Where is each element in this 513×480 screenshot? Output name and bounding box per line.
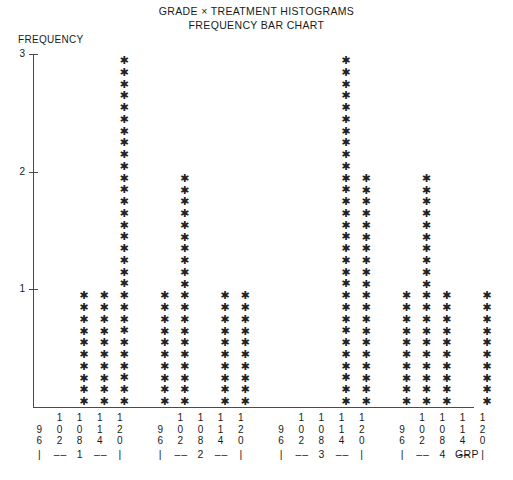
group-rule: – – <box>414 447 430 461</box>
chart-title-block: GRADE × TREATMENT HISTOGRAMS FREQUENCY B… <box>0 4 513 32</box>
chart-title-primary: GRADE × TREATMENT HISTOGRAMS <box>0 4 513 18</box>
bar-asterisk: ✱ <box>79 361 88 373</box>
x-tick-label: 114 <box>214 412 228 447</box>
bar-asterisk: ✱ <box>361 173 370 185</box>
bar-asterisk: ✱ <box>79 314 88 326</box>
bar-asterisk: ✱ <box>341 114 350 126</box>
bar-asterisk: ✱ <box>120 349 129 361</box>
bar-asterisk: ✱ <box>120 208 129 220</box>
x-tick-digit: 9 <box>395 424 409 436</box>
bar-asterisk: ✱ <box>422 267 431 279</box>
group-boundary: | <box>233 447 249 461</box>
y-axis-label: FREQUENCY <box>18 34 83 45</box>
x-tick-label: 096 <box>274 412 288 447</box>
x-tick-digit: 1 <box>435 412 449 424</box>
histogram-bar: ✱✱✱✱✱✱✱✱✱✱✱✱✱✱✱✱✱✱✱✱✱✱✱✱✱✱✱✱✱✱ <box>120 55 129 408</box>
group-rule: – – <box>213 447 229 461</box>
bar-asterisk: ✱ <box>422 361 431 373</box>
x-tick-digit: 1 <box>476 412 490 424</box>
histogram-bar: ✱✱✱✱✱✱✱✱✱✱✱✱✱✱✱✱✱✱✱✱ <box>361 173 370 408</box>
x-tick-digit: 6 <box>153 435 167 447</box>
x-tick-digit: 2 <box>294 435 308 447</box>
x-tick-label: 108 <box>314 412 328 447</box>
y-tick-mark <box>29 172 38 173</box>
x-tick-digit: 1 <box>335 424 349 436</box>
x-tick-digit: 1 <box>335 412 349 424</box>
bar-asterisk: ✱ <box>99 314 108 326</box>
histogram-bar: ✱✱✱✱✱✱✱✱✱✱ <box>99 290 108 408</box>
x-tick-label: 120 <box>234 412 248 447</box>
x-tick-digit: 0 <box>52 424 66 436</box>
y-tick-label: 1 <box>5 284 25 294</box>
bar-asterisk: ✱ <box>442 314 451 326</box>
x-tick-label: 120 <box>476 412 490 447</box>
x-tick-digit: 8 <box>435 435 449 447</box>
bar-asterisk: ✱ <box>422 314 431 326</box>
x-tick-digit: 1 <box>455 424 469 436</box>
group-rule: – – <box>51 447 67 461</box>
bar-asterisk: ✱ <box>241 396 250 408</box>
bar-asterisk: ✱ <box>341 396 350 408</box>
x-tick-digit: 2 <box>476 424 490 436</box>
x-tick-digit: 1 <box>214 412 228 424</box>
bar-asterisk: ✱ <box>341 302 350 314</box>
x-tick-digit: 8 <box>73 435 87 447</box>
x-tick-digit: 4 <box>214 435 228 447</box>
x-tick-digit: 1 <box>194 412 208 424</box>
bar-asterisk: ✱ <box>402 361 411 373</box>
x-tick-label: 114 <box>335 412 349 447</box>
bar-asterisk: ✱ <box>180 314 189 326</box>
group-axis: GRP |– –1– –||– –2– –||– –3– –||– –4– –| <box>0 447 513 461</box>
x-tick-digit: 0 <box>194 424 208 436</box>
bar-asterisk: ✱ <box>180 220 189 232</box>
group-label: 4 <box>434 447 450 461</box>
x-tick-digit: 4 <box>455 435 469 447</box>
x-tick-digit: 2 <box>415 435 429 447</box>
histogram-bar: ✱✱✱✱✱✱✱✱✱✱ <box>402 290 411 408</box>
group-rule: – – <box>454 447 470 461</box>
x-tick-label: 108 <box>194 412 208 447</box>
bar-asterisk: ✱ <box>361 396 370 408</box>
x-tick-digit: 8 <box>194 435 208 447</box>
bar-asterisk: ✱ <box>220 361 229 373</box>
x-tick-digit: 1 <box>52 412 66 424</box>
x-tick-label: 096 <box>153 412 167 447</box>
group-boundary: | <box>31 447 47 461</box>
bar-asterisk: ✱ <box>120 161 129 173</box>
bar-asterisk: ✱ <box>241 314 250 326</box>
x-tick-digit: 1 <box>173 412 187 424</box>
x-tick-digit: 8 <box>314 435 328 447</box>
bar-asterisk: ✱ <box>160 361 169 373</box>
bar-asterisk: ✱ <box>160 314 169 326</box>
group-rule: – – <box>293 447 309 461</box>
x-tick-digit: 0 <box>113 435 127 447</box>
histogram-bar: ✱✱✱✱✱✱✱✱✱✱ <box>220 290 229 408</box>
x-tick-digit: 2 <box>355 424 369 436</box>
bar-asterisk: ✱ <box>180 396 189 408</box>
group-rule: – – <box>172 447 188 461</box>
x-tick-digit: 1 <box>355 412 369 424</box>
bar-asterisk: ✱ <box>180 361 189 373</box>
group-boundary: | <box>475 447 491 461</box>
x-tick-digit: 1 <box>294 412 308 424</box>
bar-asterisk: ✱ <box>442 396 451 408</box>
chart-page: GRADE × TREATMENT HISTOGRAMS FREQUENCY B… <box>0 0 513 480</box>
x-tick-label: 108 <box>435 412 449 447</box>
x-tick-digit: 0 <box>173 424 187 436</box>
bar-asterisk: ✱ <box>220 396 229 408</box>
x-tick-digit: 9 <box>153 424 167 436</box>
x-tick-digit: 2 <box>173 435 187 447</box>
bar-asterisk: ✱ <box>120 302 129 314</box>
chart-title-secondary: FREQUENCY BAR CHART <box>0 18 513 32</box>
y-tick-label: 2 <box>5 167 25 177</box>
bar-asterisk: ✱ <box>120 396 129 408</box>
group-label: 1 <box>72 447 88 461</box>
x-tick-digit: 0 <box>355 435 369 447</box>
x-tick-digit: 0 <box>314 424 328 436</box>
y-axis-line <box>33 55 34 408</box>
x-tick-digit: 9 <box>32 424 46 436</box>
bar-asterisk: ✱ <box>341 67 350 79</box>
y-tick-mark <box>29 54 38 55</box>
x-tick-label: 102 <box>415 412 429 447</box>
x-tick-label: 120 <box>355 412 369 447</box>
